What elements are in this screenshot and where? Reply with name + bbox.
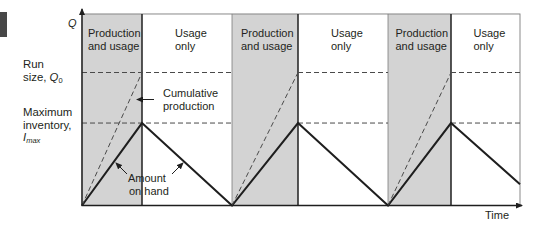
phase-label-line1: Production	[88, 27, 141, 39]
cumulative-production-line1: Cumulative	[163, 87, 218, 99]
max-inventory-label-line2: inventory,	[23, 119, 72, 131]
amount-on-hand-line2: on hand	[129, 185, 169, 197]
phase-label-line1: Production	[241, 27, 294, 39]
run-size-label-line1: Run	[23, 58, 44, 70]
cumulative-production-line2: production	[163, 100, 214, 112]
page-edge-tab	[0, 12, 7, 37]
phase-label-line1: Usage	[175, 27, 207, 39]
phase-label-line2: and usage	[241, 40, 292, 52]
run-size-label: Run size, Q0	[23, 58, 63, 85]
production-phase-label: Productionand usage	[396, 27, 449, 52]
phase-label-line1: Usage	[331, 27, 363, 39]
max-inventory-subscript: max	[26, 136, 40, 145]
run-size-symbol: Q	[50, 71, 59, 83]
phase-label-line2: only	[331, 40, 352, 52]
run-size-label-line2: size, Q0	[23, 71, 63, 85]
phase-label-line1: Usage	[474, 27, 506, 39]
x-axis-label: Time	[485, 209, 509, 221]
phase-label-line2: only	[175, 40, 196, 52]
max-inventory-label: Maximum inventory, Imax	[23, 106, 72, 145]
production-phase-label: Productionand usage	[241, 27, 294, 52]
amount-on-hand-line1: Amount	[128, 172, 166, 184]
phase-label-line1: Production	[396, 27, 449, 39]
phase-label-line2: and usage	[396, 40, 447, 52]
run-size-prefix: size,	[23, 71, 50, 83]
run-size-subscript: 0	[58, 76, 62, 85]
production-usage-inventory-chart: Productionand usageUsageonlyProductionan…	[0, 0, 535, 226]
max-inventory-symbol-line: Imax	[23, 131, 41, 145]
y-axis-label: Q	[68, 17, 77, 29]
phase-label-line2: and usage	[88, 40, 139, 52]
max-inventory-label-line1: Maximum	[23, 106, 72, 118]
phase-label-line2: only	[474, 40, 495, 52]
production-phase-label: Productionand usage	[88, 27, 141, 52]
